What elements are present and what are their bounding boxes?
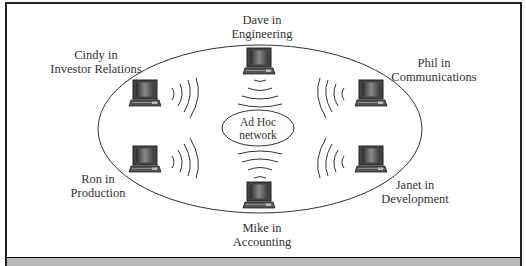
node-label-line1: Mike in (233, 221, 291, 235)
wireless-waves-icon (318, 78, 344, 118)
center-label-line1: Ad Hoc (239, 116, 277, 129)
wireless-waves-icon (238, 151, 282, 178)
laptop-icon (355, 80, 387, 106)
node-label-line2: Development (381, 192, 448, 206)
node-label-line2: Production (71, 186, 126, 200)
node-label-line1: Phil in (391, 56, 476, 70)
node-label-mike: Mike in Accounting (233, 221, 291, 249)
node-label-line2: Engineering (231, 27, 292, 41)
node-label-line2: Investor Relations (50, 62, 141, 76)
node-label-line1: Cindy in (50, 48, 141, 62)
wireless-waves-icon (172, 138, 198, 178)
laptop-icon (355, 146, 387, 172)
node-label-line2: Accounting (233, 235, 291, 249)
node-label-line1: Janet in (381, 178, 448, 192)
laptop-icon (129, 146, 161, 172)
wireless-waves-icon (172, 78, 198, 118)
node-label-dave: Dave in Engineering (231, 13, 292, 41)
node-label-line1: Ron in (71, 172, 126, 186)
laptop-icon (243, 182, 275, 208)
node-label-phil: Phil in Communications (391, 56, 476, 84)
node-label-cindy: Cindy in Investor Relations (50, 48, 141, 76)
wireless-waves-icon (318, 138, 344, 178)
node-label-line1: Dave in (231, 13, 292, 27)
node-label-line2: Communications (391, 70, 476, 84)
ad-hoc-network-label: Ad Hoc network (239, 116, 277, 142)
center-label-line2: network (239, 129, 277, 142)
node-label-janet: Janet in Development (381, 178, 448, 206)
laptop-icon (243, 48, 275, 74)
laptop-icon (129, 80, 161, 106)
node-label-ron: Ron in Production (71, 172, 126, 200)
wireless-waves-icon (238, 80, 282, 107)
